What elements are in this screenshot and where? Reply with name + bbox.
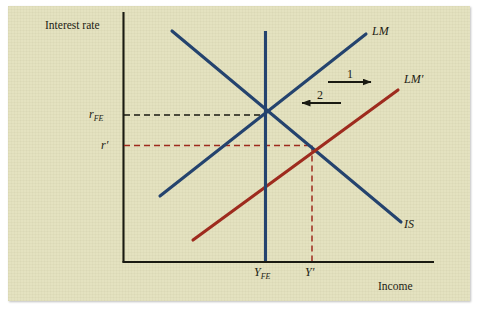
y-tick-r-prime: r′ <box>101 139 108 151</box>
y-tick-r-fe: rFE <box>89 108 103 123</box>
y-tick-r-fe-sub: FE <box>94 114 104 123</box>
is-curve-label: IS <box>404 218 414 230</box>
shift-arrows <box>302 82 371 103</box>
reference-lines <box>124 115 312 261</box>
x-axis-title: Income <box>378 281 412 293</box>
figure-root: Interest rate Income rFE r′ YFE Y′ LM LM… <box>0 0 478 311</box>
arrow-2-label: 2 <box>317 89 323 101</box>
lm-curve <box>160 34 366 196</box>
lm-prime-curve <box>193 90 398 240</box>
x-tick-y-fe-sub: FE <box>261 272 271 281</box>
lm-prime-curve-label: LM′ <box>404 73 423 85</box>
x-tick-y-prime: Y′ <box>305 266 314 278</box>
lm-curve-label: LM <box>372 25 389 37</box>
x-tick-y-fe-base: Y <box>254 265 261 279</box>
x-tick-y-fe: YFE <box>254 266 270 281</box>
is-lm-plot <box>0 0 478 311</box>
y-axis-title: Interest rate <box>45 20 100 32</box>
axis-lines <box>123 12 435 263</box>
arrow-1-label: 1 <box>347 68 353 80</box>
is-curve <box>172 31 401 222</box>
